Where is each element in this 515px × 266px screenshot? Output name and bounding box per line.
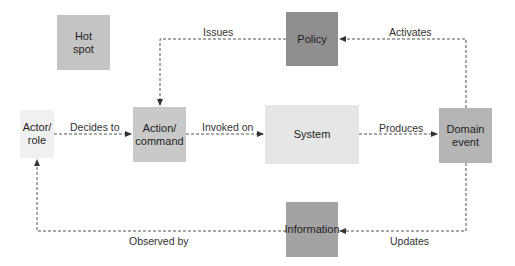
edge-issues: [160, 39, 286, 105]
edge-label-decides-to: Decides to: [70, 121, 120, 133]
node-label: Hot: [75, 30, 92, 42]
node-label: Domain: [447, 123, 485, 135]
edge-label-produces: Produces: [379, 122, 423, 134]
node-label: command: [135, 135, 183, 147]
edge-label-observed-by: Observed by: [129, 235, 189, 247]
edge-observed-by: [37, 160, 286, 231]
node-label: event: [452, 136, 479, 148]
node-information: Information: [286, 202, 338, 257]
edge-label-issues: Issues: [203, 26, 233, 38]
node-system: System: [265, 105, 359, 164]
node-action-command: Action/ command: [133, 107, 186, 162]
node-hot-spot: Hot spot: [57, 15, 110, 70]
node-label: Policy: [297, 33, 326, 46]
node-label: Information: [284, 223, 339, 236]
edge-updates: [340, 163, 466, 231]
edge-label-activates: Activates: [389, 26, 432, 38]
edge-activates: [340, 39, 466, 108]
node-label: Action/: [143, 122, 177, 134]
node-actor-role: Actor/ role: [20, 110, 54, 158]
node-policy: Policy: [286, 12, 338, 66]
node-label: role: [28, 134, 46, 146]
node-label: System: [294, 128, 331, 141]
node-label: Actor/: [23, 121, 52, 133]
edge-label-updates: Updates: [390, 235, 429, 247]
edge-label-invoked-on: Invoked on: [202, 121, 253, 133]
node-domain-event: Domain event: [439, 108, 492, 163]
node-label: spot: [73, 43, 94, 55]
